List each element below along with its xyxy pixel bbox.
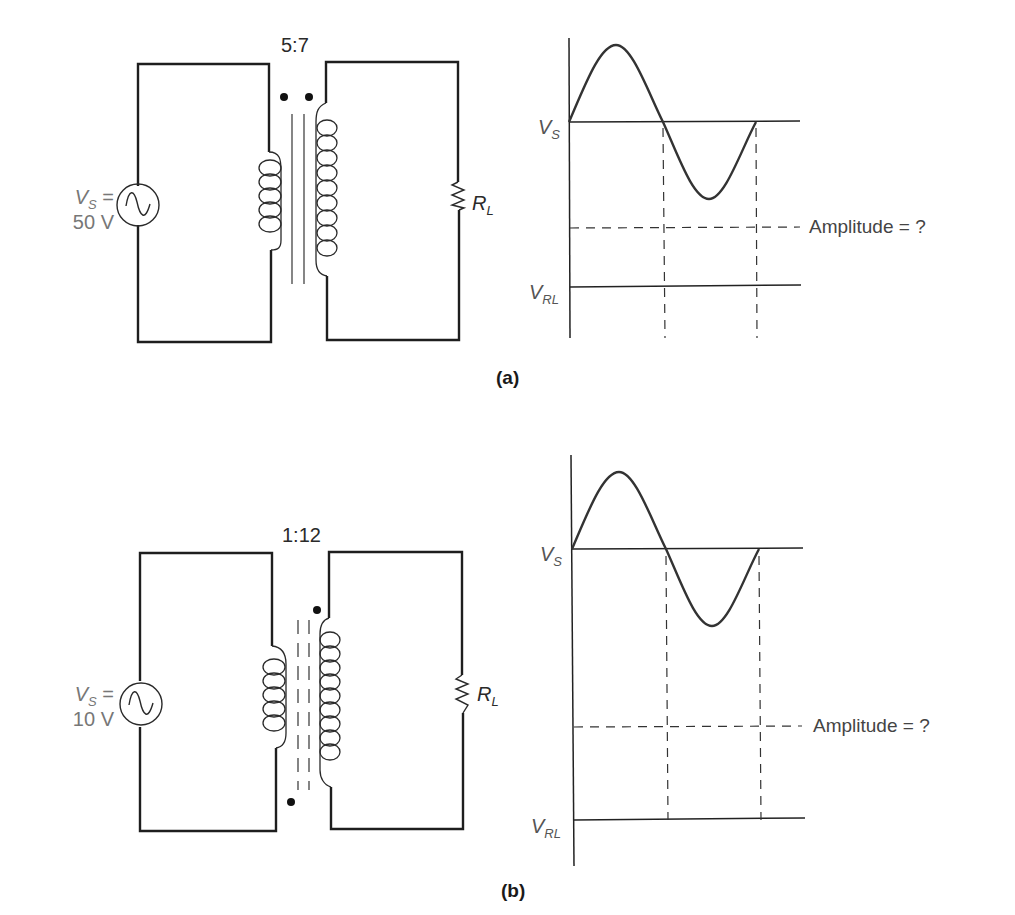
turns-ratio-a: 5:7 — [281, 35, 309, 55]
secondary-coil-icon — [320, 632, 340, 760]
vs-axis-label-b: VS — [540, 543, 562, 569]
dot-primary-icon — [287, 798, 295, 806]
vrl-axis-label-b: VRL — [531, 815, 561, 841]
figure-canvas — [0, 0, 1015, 915]
source-label-b: VS = 10 V — [50, 684, 114, 730]
secondary-coil-icon — [317, 120, 337, 256]
dot-secondary-icon — [313, 606, 321, 614]
circuit-b — [120, 552, 468, 831]
amplitude-annotation-b: Amplitude = ? — [813, 715, 930, 737]
vrl-axis-label-a: VRL — [529, 281, 559, 307]
amplitude-annotation-a: Amplitude = ? — [809, 216, 926, 238]
load-label-a: RL — [472, 193, 494, 217]
caption-b: (b) — [501, 880, 525, 902]
primary-coil-icon — [263, 659, 285, 731]
source-label-a: VS = 50 V — [50, 187, 114, 233]
waveform-b — [571, 455, 805, 866]
caption-a: (a) — [496, 367, 519, 389]
dot-secondary-icon — [305, 93, 313, 101]
dot-primary-icon — [280, 93, 288, 101]
turns-ratio-b: 1:12 — [282, 525, 321, 545]
resistor-icon — [452, 182, 464, 210]
vs-axis-label-a: VS — [538, 116, 560, 142]
resistor-icon — [456, 675, 468, 713]
waveform-a — [569, 38, 801, 338]
primary-coil-icon — [259, 160, 281, 232]
circuit-a — [117, 62, 464, 342]
load-label-b: RL — [477, 684, 499, 708]
